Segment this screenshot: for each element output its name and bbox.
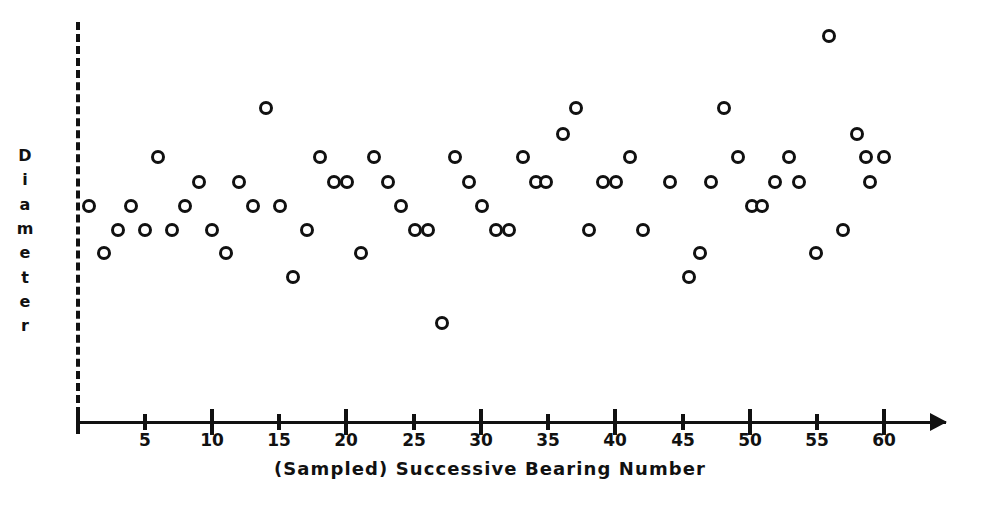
data-point-circle [273, 199, 287, 213]
data-point-circle [205, 223, 219, 237]
data-point-circle [863, 175, 877, 189]
data-point-circle [192, 175, 206, 189]
data-point-circle [731, 150, 745, 164]
data-point-circle [286, 270, 300, 284]
data-point-circle [809, 246, 823, 260]
data-point-circle [97, 246, 111, 260]
data-point-circle [704, 175, 718, 189]
data-point-circle [693, 246, 707, 260]
data-point-circle [782, 150, 796, 164]
data-point-circle [582, 223, 596, 237]
data-point-circle [850, 127, 864, 141]
data-point-circle [462, 175, 476, 189]
data-point-circle [859, 150, 873, 164]
data-point-circle [609, 175, 623, 189]
data-point-circle [792, 175, 806, 189]
data-point-circle [435, 316, 449, 330]
data-point-circle [421, 223, 435, 237]
data-point-circle [516, 150, 530, 164]
data-point-circle [151, 150, 165, 164]
data-point-circle [340, 175, 354, 189]
data-point-circle [178, 199, 192, 213]
data-point-circle [682, 270, 696, 284]
data-point-circle [822, 29, 836, 43]
plot-area [0, 0, 985, 506]
data-point-circle [219, 246, 233, 260]
data-point-circle [596, 175, 610, 189]
data-point-circle [877, 150, 891, 164]
data-point-circle [111, 223, 125, 237]
data-point-circle [475, 199, 489, 213]
data-point-circle [569, 101, 583, 115]
data-point-circle [623, 150, 637, 164]
data-point-circle [502, 223, 516, 237]
data-point-circle [82, 199, 96, 213]
data-point-circle [636, 223, 650, 237]
data-point-circle [313, 150, 327, 164]
data-point-circle [394, 199, 408, 213]
data-point-circle [539, 175, 553, 189]
data-point-circle [489, 223, 503, 237]
scatter-chart: D i a m e t e r 5 10 15 20 25 30 35 40 4… [0, 0, 985, 506]
data-point-circle [717, 101, 731, 115]
data-point-circle [367, 150, 381, 164]
data-point-circle [124, 199, 138, 213]
data-point-circle [556, 127, 570, 141]
data-point-circle [300, 223, 314, 237]
data-point-circle [768, 175, 782, 189]
data-point-circle [836, 223, 850, 237]
data-point-circle [232, 175, 246, 189]
data-point-circle [448, 150, 462, 164]
data-point-circle [755, 199, 769, 213]
data-point-circle [354, 246, 368, 260]
data-point-circle [408, 223, 422, 237]
data-point-circle [259, 101, 273, 115]
data-point-circle [381, 175, 395, 189]
data-point-circle [165, 223, 179, 237]
data-point-circle [246, 199, 260, 213]
data-point-circle [138, 223, 152, 237]
data-point-circle [663, 175, 677, 189]
data-point-circle [327, 175, 341, 189]
